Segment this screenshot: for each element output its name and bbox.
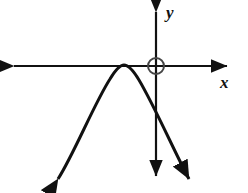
coordinate-plane-svg	[0, 0, 248, 193]
y-axis-label: y	[166, 4, 174, 21]
graph-figure: y x	[0, 0, 248, 193]
x-axis-label: x	[220, 74, 229, 91]
parabola-curve	[58, 65, 189, 179]
